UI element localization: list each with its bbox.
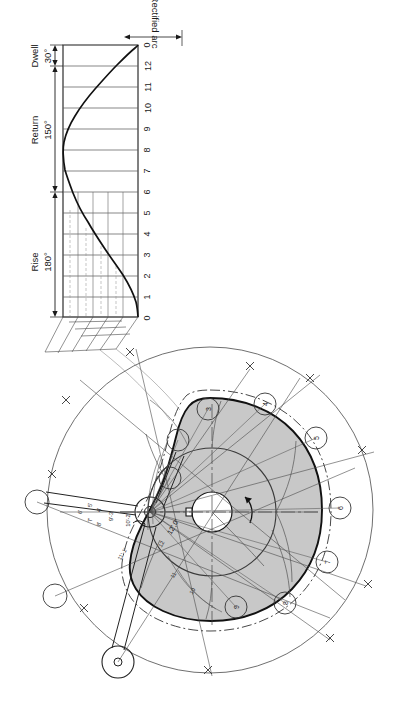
cam-profile-layout: 3 4 5 6 bbox=[0, 0, 404, 707]
svg-text:6': 6' bbox=[77, 510, 83, 514]
svg-text:4': 4' bbox=[96, 508, 102, 512]
transfer-lines bbox=[100, 349, 180, 420]
svg-text:11'-1': 11'-1' bbox=[116, 547, 128, 561]
svg-text:9'-3': 9'-3' bbox=[108, 511, 114, 521]
svg-text:8': 8' bbox=[96, 522, 102, 526]
svg-text:10'-2': 10'-2' bbox=[125, 513, 131, 526]
pivot-displacement-labels: 6' 5' 7' 4' 8' 9'-3' 10'-2' 11'-1' bbox=[77, 503, 131, 561]
svg-text:5': 5' bbox=[87, 503, 93, 507]
svg-text:7': 7' bbox=[87, 518, 93, 522]
svg-text:3: 3 bbox=[205, 407, 212, 411]
svg-text:4: 4 bbox=[262, 402, 269, 406]
drawing-canvas: 0 1 2 3 4 5 6 7 8 9 10 11 12 0 bbox=[0, 0, 404, 707]
